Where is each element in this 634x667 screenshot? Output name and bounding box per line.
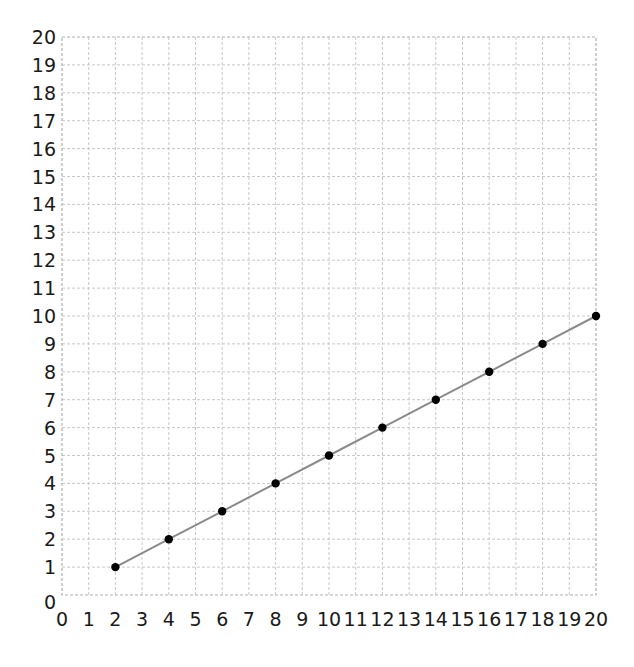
x-tick-label: 4 [163,608,175,630]
x-tick-label: 2 [109,608,121,630]
data-point [325,451,333,459]
x-tick-label: 1 [83,608,95,630]
x-tick-label: 0 [56,608,68,630]
y-tick-label: 20 [32,26,56,48]
x-tick-label: 18 [531,608,555,630]
x-tick-label: 7 [243,608,255,630]
data-point [432,396,440,404]
y-tick-label: 16 [32,138,56,160]
x-tick-label: 9 [296,608,308,630]
x-tick-label: 17 [504,608,528,630]
y-tick-label: 14 [32,193,56,215]
y-tick-label: 3 [44,500,56,522]
grid-lines [62,37,596,595]
x-tick-label: 5 [189,608,201,630]
x-tick-label: 3 [136,608,148,630]
x-tick-label: 12 [370,608,394,630]
y-tick-label: 5 [44,445,56,467]
x-tick-label: 8 [270,608,282,630]
data-point [592,312,600,320]
y-tick-label: 4 [44,472,56,494]
data-point [218,507,226,515]
y-tick-label: 7 [44,389,56,411]
y-tick-label: 11 [32,277,56,299]
x-tick-label: 10 [317,608,341,630]
y-tick-label: 18 [32,82,56,104]
x-tick-label: 15 [450,608,474,630]
x-tick-label: 19 [557,608,581,630]
line-chart: 01234567891011121314151617181920 0123456… [0,0,634,667]
y-axis-tick-labels: 01234567891011121314151617181920 [32,26,56,613]
x-tick-label: 11 [344,608,368,630]
y-tick-label: 10 [32,305,56,327]
y-tick-label: 17 [32,110,56,132]
y-tick-label: 8 [44,361,56,383]
x-axis-tick-labels: 01234567891011121314151617181920 [56,608,608,630]
y-tick-label: 9 [44,333,56,355]
x-tick-label: 14 [424,608,448,630]
y-tick-label: 13 [32,221,56,243]
x-tick-label: 13 [397,608,421,630]
y-tick-label: 1 [44,556,56,578]
data-point [271,479,279,487]
y-tick-label: 15 [32,166,56,188]
data-point [378,423,386,431]
y-tick-label: 12 [32,249,56,271]
y-tick-label: 19 [32,54,56,76]
x-tick-label: 6 [216,608,228,630]
data-point [485,368,493,376]
data-point [111,563,119,571]
y-tick-label: 2 [44,528,56,550]
y-tick-label: 6 [44,417,56,439]
data-point [165,535,173,543]
data-point [538,340,546,348]
x-tick-label: 20 [584,608,608,630]
x-tick-label: 16 [477,608,501,630]
y-tick-label: 0 [44,591,56,613]
